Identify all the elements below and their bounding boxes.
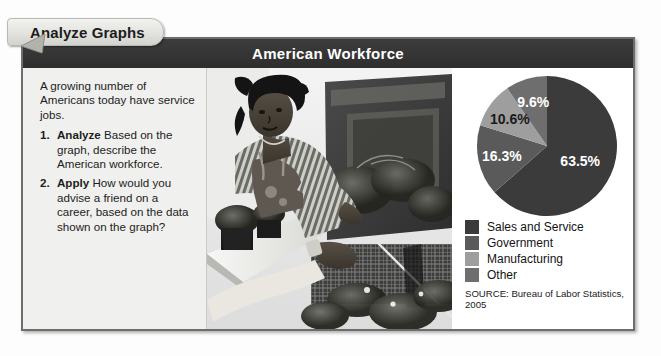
legend-item: Sales and Service [465,220,633,234]
question-panel: A growing number of Americans today have… [23,68,207,329]
pie-label-sales-and-service: 63.5% [560,153,600,169]
card-title: American Workforce [252,45,404,62]
legend-label: Government [487,236,553,250]
question-list: 1.Analyze Based on the graph, describe t… [40,128,195,234]
question-lead: Apply [57,176,89,189]
question-number: 2. [40,176,50,190]
legend-item: Other [465,268,633,282]
legend-item: Manufacturing [465,252,633,266]
legend-swatch-manufacturing [465,252,479,266]
question-item-1: 1.Analyze Based on the graph, describe t… [40,128,195,171]
question-lead: Analyze [57,128,101,141]
chart-legend: Sales and Service Government Manufacturi… [461,220,633,282]
question-number: 1. [40,128,50,142]
legend-swatch-other [465,268,479,282]
tab-label: Analyze Graphs [30,24,145,41]
question-item-2: 2.Apply How would you advise a friend on… [40,176,195,234]
legend-label: Other [487,268,517,282]
pie-label-government: 16.3% [482,148,522,164]
legend-swatch-sales-and-service [465,220,479,234]
legend-item: Government [465,236,633,250]
chart-panel: 63.5% 16.3% 10.6% 9.6% Sales and Service… [452,68,635,329]
pie-label-other: 9.6% [517,94,549,110]
pie-label-manufacturing: 10.6% [490,111,530,127]
garden-worker-photo [207,68,452,329]
analyze-graphs-card: American Workforce A growing number of A… [21,37,635,331]
legend-swatch-government [465,236,479,250]
chart-source: SOURCE: Bureau of Labor Statistics, 2005 [461,288,633,311]
legend-label: Sales and Service [487,220,584,234]
card-body: A growing number of Americans today have… [23,68,633,329]
legend-label: Manufacturing [487,252,563,266]
page-root: Analyze Graphs American Workforce A grow… [0,0,661,356]
analyze-graphs-tab[interactable]: Analyze Graphs [20,18,164,46]
pie-chart: 63.5% 16.3% 10.6% 9.6% [461,76,633,216]
intro-text: A growing number of Americans today have… [40,79,195,122]
